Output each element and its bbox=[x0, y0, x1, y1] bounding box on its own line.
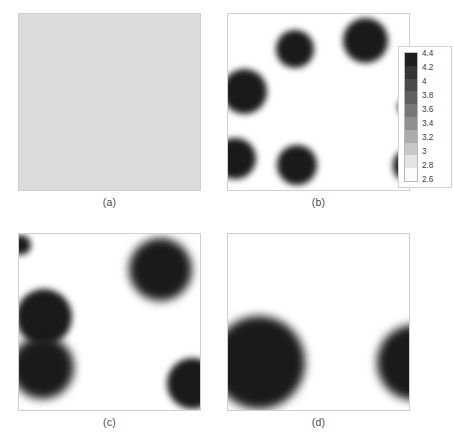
field-blob bbox=[228, 69, 267, 114]
field-blob bbox=[228, 138, 256, 180]
panel-a-uniform-field bbox=[19, 14, 200, 190]
panel-d-caption: (d) bbox=[227, 416, 410, 428]
panel-d-frame bbox=[227, 233, 410, 411]
panel-a-frame bbox=[18, 13, 201, 191]
colorbar-tick: 3 bbox=[422, 148, 452, 156]
colorbar-gradient bbox=[404, 52, 418, 182]
colorbar-segment bbox=[405, 155, 417, 168]
panel-a-field bbox=[19, 14, 200, 190]
field-blob bbox=[343, 18, 388, 63]
field-blob bbox=[19, 235, 31, 255]
panel-b bbox=[227, 13, 410, 191]
panel-c-caption: (c) bbox=[18, 416, 201, 428]
panel-c-frame bbox=[18, 233, 201, 411]
panel-b-frame bbox=[227, 13, 410, 191]
panel-d bbox=[227, 233, 410, 411]
colorbar-tick: 2.8 bbox=[422, 162, 452, 170]
colorbar-tick: 3.8 bbox=[422, 92, 452, 100]
colorbar-segment bbox=[405, 104, 417, 117]
colorbar-tick: 4.4 bbox=[422, 50, 452, 58]
panel-a bbox=[18, 13, 201, 191]
colorbar: 4.44.243.83.63.43.232.82.6 bbox=[398, 46, 452, 188]
panel-d-field bbox=[228, 234, 409, 410]
panel-c-field bbox=[19, 234, 200, 410]
field-blob bbox=[129, 238, 192, 301]
colorbar-segment bbox=[405, 168, 417, 181]
field-blob bbox=[377, 325, 409, 399]
colorbar-segment bbox=[405, 143, 417, 156]
colorbar-tick: 3.6 bbox=[422, 106, 452, 114]
colorbar-segment bbox=[405, 53, 417, 66]
colorbar-tick: 4.2 bbox=[422, 64, 452, 72]
field-blob bbox=[19, 336, 74, 399]
panel-b-field bbox=[228, 14, 409, 190]
field-blob bbox=[277, 145, 317, 185]
panel-b-caption: (b) bbox=[227, 196, 410, 208]
field-blob bbox=[228, 316, 305, 408]
colorbar-segment bbox=[405, 130, 417, 143]
colorbar-tick-labels: 4.44.243.83.63.43.232.82.6 bbox=[422, 50, 452, 184]
panel-c bbox=[18, 233, 201, 411]
panel-a-caption: (a) bbox=[18, 196, 201, 208]
field-blob bbox=[276, 30, 314, 68]
colorbar-tick: 3.4 bbox=[422, 120, 452, 128]
colorbar-tick: 3.2 bbox=[422, 134, 452, 142]
colorbar-tick: 2.6 bbox=[422, 176, 452, 184]
field-blob bbox=[167, 358, 200, 409]
colorbar-segment bbox=[405, 91, 417, 104]
figure-container: (a) (b) 4.44.243.83.63.43.232.82.6 (c) (… bbox=[0, 0, 454, 444]
colorbar-segment bbox=[405, 66, 417, 79]
colorbar-tick: 4 bbox=[422, 78, 452, 86]
colorbar-segment bbox=[405, 79, 417, 92]
colorbar-segment bbox=[405, 117, 417, 130]
